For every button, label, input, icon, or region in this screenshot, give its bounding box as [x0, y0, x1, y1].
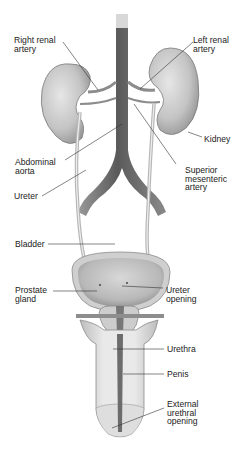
bladder-shape — [72, 252, 170, 312]
label-abdominal-aorta: Abdominal aorta — [15, 158, 56, 175]
label-external-urethral-opening: External urethral opening — [167, 400, 199, 426]
label-urethra: Urethra — [167, 345, 196, 354]
penis-shape — [76, 314, 164, 437]
label-ureter: Ureter — [14, 192, 38, 201]
label-superior-mesenteric-artery: Superior mesenteric artery — [185, 166, 227, 192]
label-bladder: Bladder — [15, 240, 45, 249]
label-ureter-opening: Ureter opening — [166, 286, 197, 303]
urinary-system-illustration — [0, 0, 243, 461]
label-prostate-gland: Prostate gland — [15, 286, 47, 303]
label-penis: Penis — [167, 370, 189, 379]
label-kidney: Kidney — [204, 135, 230, 144]
label-left-renal-artery: Left renal artery — [193, 36, 229, 53]
label-right-renal-artery: Right renal artery — [14, 36, 56, 53]
left-kidney-shape — [149, 48, 199, 135]
